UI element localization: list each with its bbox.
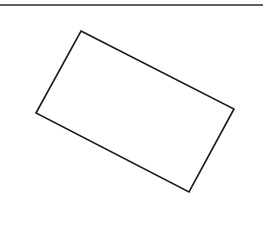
rotated-rectangle [36, 31, 234, 192]
diagram-canvas [0, 0, 263, 227]
